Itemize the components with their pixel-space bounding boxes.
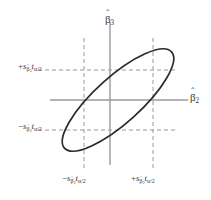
tick-label-lower-beta2: −sˆβ2tα/2: [62, 174, 86, 186]
tick-beta-hat: ˆ: [71, 176, 74, 181]
tick-beta-hat: ˆ: [27, 124, 30, 129]
tick-t-subscript: α/2: [34, 126, 42, 132]
tick-t-subscript: α/2: [34, 66, 42, 72]
x-axis-subscript: 2: [196, 97, 200, 105]
plot-area: [0, 0, 211, 200]
confidence-ellipse-figure: ˆβ3 ˆβ2 +sˆβ3tα/2 −sˆβ3tα/2 −sˆβ2tα/2 +s…: [0, 0, 211, 200]
tick-label-upper-beta2: +sˆβ2tα/2: [131, 174, 155, 186]
y-axis-subscript: 3: [111, 19, 115, 27]
tick-t-subscript: α/2: [78, 178, 86, 184]
tick-label-lower-beta3: −sˆβ3tα/2: [18, 122, 42, 134]
tick-label-upper-beta3: +sˆβ3tα/2: [18, 62, 42, 74]
tick-t-subscript: α/2: [147, 178, 155, 184]
x-axis-hat: ˆ: [190, 87, 196, 96]
y-axis-label: ˆβ3: [105, 14, 114, 27]
x-axis-label: ˆβ2: [190, 92, 199, 105]
y-axis-hat: ˆ: [105, 9, 111, 18]
tick-beta-hat: ˆ: [27, 64, 30, 69]
tick-beta-hat: ˆ: [140, 176, 143, 181]
